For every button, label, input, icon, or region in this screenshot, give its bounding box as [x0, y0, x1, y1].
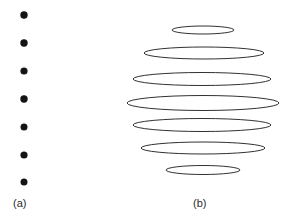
point-marker: [21, 124, 28, 131]
point-marker: [21, 179, 28, 186]
point-marker: [20, 95, 27, 102]
point-marker: [20, 39, 27, 46]
point-marker: [20, 11, 27, 18]
figure-container: (a) (b): [0, 0, 291, 222]
point-marker: [20, 67, 27, 74]
point-marker: [20, 151, 27, 158]
panel-b-caption: (b): [193, 197, 206, 209]
figure-canvas: [0, 0, 291, 222]
figure-background: [0, 0, 291, 222]
panel-a-caption: (a): [13, 197, 26, 209]
